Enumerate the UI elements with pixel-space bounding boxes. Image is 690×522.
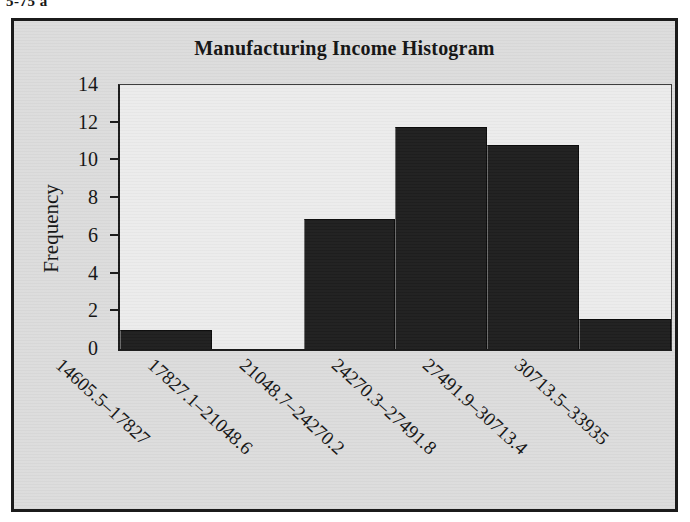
y-tick-label: 12 [78,110,98,133]
bar-cell [395,85,487,349]
y-tick-label: 8 [88,186,98,209]
x-tick-label: 14605.5–17827 [51,354,154,450]
bar [487,145,579,349]
bar-cell [487,85,579,349]
x-axis: 14605.5–1782717827.1–21048.621048.7–2427… [118,350,669,500]
bar-cell [579,85,671,349]
figure-frame: Manufacturing Income Histogram Frequency… [11,18,678,512]
bar-cell [120,85,212,349]
chart-title: Manufacturing Income Histogram [14,37,675,60]
y-tick-label: 2 [88,299,98,322]
bar [395,127,487,350]
bar-cell [212,85,304,349]
x-tick-label: 30713.5–33935 [510,354,613,450]
bar [120,330,212,349]
y-tick-label: 10 [78,148,98,171]
y-tick-label: 6 [88,223,98,246]
y-axis: 02468101214 [14,84,110,348]
bar [304,219,396,349]
y-tick-label: 0 [88,337,98,360]
figure-caption: 5-75 a [6,0,48,10]
y-tick-label: 14 [78,73,98,96]
bar-series [120,85,671,349]
y-tick-label: 4 [88,261,98,284]
bar-cell [304,85,396,349]
bar [579,319,671,349]
plot-area [118,84,672,351]
